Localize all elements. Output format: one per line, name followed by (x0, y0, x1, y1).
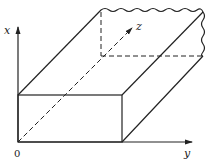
x-axis-label: x (4, 24, 11, 37)
z-axis (18, 28, 132, 142)
z-axis-label: z (135, 20, 142, 33)
wavy-back-edge (101, 9, 203, 13)
origin-label: 0 (14, 148, 20, 159)
front-face (18, 95, 122, 142)
top-left-edge (18, 10, 101, 95)
top-right-edge (122, 12, 203, 95)
wavy-right-edge (202, 12, 205, 56)
bottom-right-edge (122, 56, 203, 142)
y-axis-label: y (183, 147, 191, 160)
slab-diagram: x y z 0 (0, 0, 215, 160)
